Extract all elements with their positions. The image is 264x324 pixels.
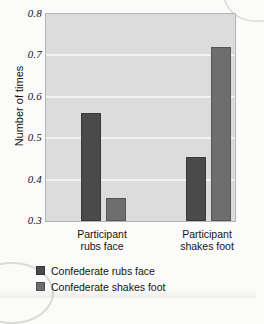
y-axis-tick-label: 0.8 xyxy=(2,7,42,19)
x-axis-category-line: rubs face xyxy=(57,240,147,252)
y-axis-tick-label: 0.5 xyxy=(2,131,42,143)
y-axis-ticks: 0.80.70.60.50.40.3 xyxy=(0,0,42,235)
plot-area xyxy=(45,13,236,222)
legend-label: Confederate shakes foot xyxy=(51,281,165,293)
bar xyxy=(186,157,206,221)
x-axis-category-line: shakes foot xyxy=(162,240,252,252)
y-axis-tick-label: 0.3 xyxy=(2,214,42,226)
x-axis-category-line: Participant xyxy=(57,228,147,240)
bar xyxy=(81,113,101,221)
bar-series-group xyxy=(46,14,235,221)
legend: Confederate rubs faceConfederate shakes … xyxy=(36,264,165,296)
y-axis-tick-label: 0.6 xyxy=(2,90,42,102)
bar xyxy=(211,47,231,221)
legend-label: Confederate rubs face xyxy=(51,265,155,277)
x-axis-category-label: Participantrubs face xyxy=(57,228,147,252)
legend-item: Confederate rubs face xyxy=(36,264,165,277)
legend-item: Confederate shakes foot xyxy=(36,280,165,293)
x-axis-category-line: Participant xyxy=(162,228,252,240)
y-axis-tick-label: 0.4 xyxy=(2,173,42,185)
bar xyxy=(106,198,126,221)
legend-swatch-icon xyxy=(36,266,45,275)
legend-swatch-icon xyxy=(36,282,45,291)
y-axis-tick-label: 0.7 xyxy=(2,48,42,60)
x-axis-category-label: Participantshakes foot xyxy=(162,228,252,252)
